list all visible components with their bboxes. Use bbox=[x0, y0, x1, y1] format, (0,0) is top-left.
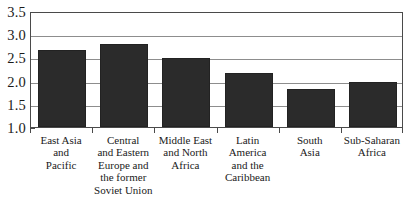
x-axis-category-label: Sub-Saharan Africa bbox=[338, 134, 406, 159]
x-axis-category-labels: East Asia and PacificCentral and Eastern… bbox=[30, 134, 403, 199]
bar bbox=[38, 50, 86, 127]
bar bbox=[287, 89, 335, 128]
x-axis-category-label: East Asia and Pacific bbox=[27, 134, 95, 171]
bar bbox=[225, 73, 273, 127]
x-axis-tick-mark bbox=[92, 128, 93, 133]
y-axis-tick-label: 1.0 bbox=[7, 121, 26, 136]
x-axis-category-label: South Asia bbox=[276, 134, 344, 159]
y-axis-tick-label: 2.5 bbox=[7, 51, 26, 66]
bar-series bbox=[31, 13, 402, 127]
bar-chart: 3.53.02.52.01.51.0 East Asia and Pacific… bbox=[0, 0, 412, 199]
x-axis-tick-mark bbox=[341, 128, 342, 133]
bar bbox=[349, 82, 397, 127]
x-axis-tick-marks bbox=[30, 128, 403, 133]
y-axis-tick-label: 2.0 bbox=[7, 74, 26, 89]
y-axis-tick-label: 3.0 bbox=[7, 28, 26, 43]
x-axis-tick-mark bbox=[217, 128, 218, 133]
x-axis-category-label: Central and Eastern Europe and the forme… bbox=[89, 134, 157, 196]
y-axis-tick-labels: 3.53.02.52.01.51.0 bbox=[0, 0, 28, 199]
x-axis-tick-mark bbox=[154, 128, 155, 133]
bar bbox=[162, 58, 210, 127]
x-axis-category-label: Latin America and the Caribbean bbox=[214, 134, 282, 184]
x-axis-category-label: Middle East and North Africa bbox=[151, 134, 219, 171]
x-axis-tick-mark bbox=[402, 128, 403, 133]
y-axis-tick-label: 3.5 bbox=[7, 5, 26, 20]
x-axis-tick-mark bbox=[30, 128, 31, 133]
y-axis-tick-label: 1.5 bbox=[7, 98, 26, 113]
plot-area bbox=[30, 12, 403, 128]
bar bbox=[100, 44, 148, 127]
x-axis-tick-mark bbox=[279, 128, 280, 133]
